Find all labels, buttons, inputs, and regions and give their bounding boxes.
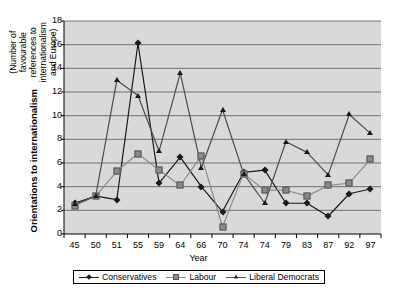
data-point-liberal-democrats-74 [262, 200, 268, 205]
legend-item-liberal-democrats: Liberal Democrats [226, 273, 319, 282]
data-point-liberal-democrats-74 [241, 171, 247, 176]
data-point-liberal-democrats-83 [304, 149, 310, 154]
data-point-labour-66 [198, 152, 205, 159]
data-point-labour-83 [304, 193, 311, 200]
legend-item-labour: Labour [166, 273, 216, 282]
data-point-liberal-democrats-45 [72, 201, 78, 206]
data-point-liberal-democrats-50 [93, 193, 99, 198]
data-point-conservatives-97 [367, 185, 374, 192]
data-point-labour-79 [282, 187, 289, 194]
data-point-conservatives-74 [261, 167, 268, 174]
data-point-labour-87 [325, 182, 332, 189]
data-point-labour-55 [134, 150, 141, 157]
data-point-liberal-democrats-70 [220, 107, 226, 112]
data-point-conservatives-66 [198, 183, 205, 190]
data-point-liberal-democrats-92 [346, 111, 352, 116]
legend-marker-square-icon [166, 273, 186, 282]
legend-marker-triangle-icon [226, 273, 246, 282]
data-point-labour-70 [219, 223, 226, 230]
data-point-labour-92 [346, 180, 353, 187]
data-point-liberal-democrats-59 [156, 148, 162, 153]
data-point-conservatives-79 [282, 200, 289, 207]
data-point-liberal-democrats-55 [135, 93, 141, 98]
data-point-liberal-democrats-51 [114, 77, 120, 82]
data-point-liberal-democrats-66 [198, 165, 204, 170]
data-point-conservatives-51 [113, 196, 120, 203]
data-point-conservatives-70 [219, 208, 226, 215]
data-point-liberal-democrats-97 [367, 130, 373, 135]
data-point-labour-97 [367, 156, 374, 163]
data-point-conservatives-64 [177, 154, 184, 161]
x-tick-label-14: 97 [358, 240, 382, 250]
data-point-liberal-democrats-87 [325, 172, 331, 177]
chart-legend: ConservativesLabourLiberal Democrats [73, 270, 325, 284]
data-point-liberal-democrats-79 [283, 139, 289, 144]
data-point-labour-64 [177, 182, 184, 189]
legend-marker-diamond-icon [79, 273, 99, 282]
data-point-conservatives-59 [156, 180, 163, 187]
data-point-labour-59 [156, 167, 163, 174]
legend-label: Labour [189, 273, 216, 282]
legend-label: Conservatives [102, 273, 156, 282]
data-point-conservatives-92 [346, 190, 353, 197]
data-point-labour-74 [261, 187, 268, 194]
data-point-labour-51 [113, 168, 120, 175]
line-chart: Orientations to internationalism (Number… [0, 0, 397, 301]
data-point-conservatives-83 [303, 200, 310, 207]
legend-label: Liberal Democrats [249, 273, 319, 282]
data-point-conservatives-87 [325, 213, 332, 220]
data-point-liberal-democrats-64 [177, 70, 183, 75]
x-axis-title: Year [0, 253, 397, 263]
data-point-conservatives-55 [134, 40, 141, 47]
x-axis-tick-labels: 455051555964667074747983879297 [0, 240, 397, 254]
legend-item-conservatives: Conservatives [79, 273, 156, 282]
